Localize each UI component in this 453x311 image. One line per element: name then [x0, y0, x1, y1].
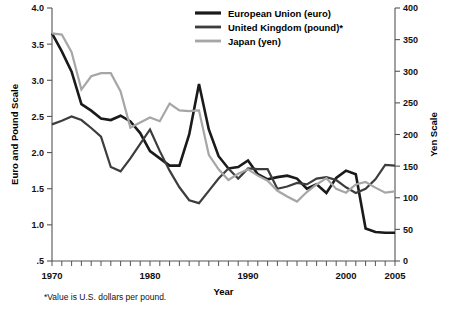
y-axis-title-left: Euro and Pound Scale: [9, 84, 20, 185]
y-axis-tick-label-right: 200: [403, 130, 418, 140]
y-axis-tick-label-right: 300: [403, 67, 418, 77]
legend-label: Japan (yen): [228, 36, 281, 47]
y-axis-tick-label-left: 1.5: [31, 184, 44, 194]
x-axis-tick-label: 2000: [335, 270, 356, 281]
chart-footnote: *Value is U.S. dollars per pound.: [44, 292, 166, 302]
x-axis-tick-label: 1980: [139, 270, 160, 281]
x-axis-tick-label: 2005: [384, 270, 406, 281]
y-axis-tick-label-right: 150: [403, 162, 418, 172]
legend-label: United Kingdom (pound)*: [228, 22, 343, 33]
y-axis-tick-label-right: 350: [403, 35, 418, 45]
y-axis-tick-label-right: 400: [403, 3, 418, 13]
x-axis-tick-label: 1970: [41, 270, 62, 281]
y-axis-tick-label-right: 0: [403, 256, 408, 266]
y-axis-tick-label-left: 4.0: [31, 3, 44, 13]
legend-label: European Union (euro): [228, 8, 331, 19]
axis-frame: [52, 8, 395, 261]
y-axis-tick-label-right: 50: [403, 225, 413, 235]
x-axis-title: Year: [213, 286, 233, 297]
y-axis-tick-label-left: .5: [36, 256, 44, 266]
y-axis-tick-label-left: 3.0: [31, 76, 44, 86]
y-axis-tick-label-left: 2.0: [31, 148, 44, 158]
series-line-japan-yen: [52, 33, 395, 201]
exchange-rate-chart: .51.01.52.02.53.03.54.005010015020025030…: [0, 0, 453, 311]
x-axis-tick-label: 1990: [237, 270, 258, 281]
y-axis-title-right: Yen Scale: [428, 112, 439, 156]
series-line-european-union-euro: [52, 33, 395, 233]
chart-canvas: .51.01.52.02.53.03.54.005010015020025030…: [0, 0, 453, 311]
y-axis-tick-label-left: 1.0: [31, 220, 44, 230]
y-axis-tick-label-right: 250: [403, 98, 418, 108]
y-axis-tick-label-left: 3.5: [31, 40, 44, 50]
y-axis-tick-label-left: 2.5: [31, 112, 44, 122]
y-axis-tick-label-right: 100: [403, 193, 418, 203]
series-line-united-kingdom-pound: [52, 116, 395, 203]
